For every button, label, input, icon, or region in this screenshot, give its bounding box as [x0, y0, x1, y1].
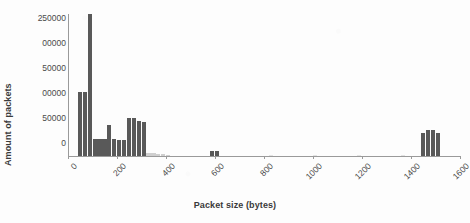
bar: [107, 125, 111, 156]
bar: [83, 92, 87, 156]
x-tick-mark: [264, 156, 265, 159]
x-tick-200: 200: [90, 161, 128, 199]
x-tick-800: 800: [237, 161, 275, 199]
x-tick-mark: [313, 156, 314, 159]
bar: [357, 155, 361, 156]
bar: [431, 130, 435, 156]
x-tick-400: 400: [139, 161, 177, 199]
chart-root: 250000 00000 50000 00000 50000 0 Amount …: [0, 0, 470, 223]
bar: [151, 153, 155, 156]
bar: [102, 139, 106, 156]
x-tick-mark: [215, 156, 216, 159]
bar: [122, 140, 126, 156]
bar: [127, 118, 131, 156]
bar: [401, 155, 405, 156]
x-tick-mark: [117, 156, 118, 159]
bar: [269, 155, 273, 156]
bar: [137, 121, 141, 156]
x-tick-mark: [362, 156, 363, 159]
x-tick-1200: 1200: [335, 161, 373, 199]
x-tick-mark: [166, 156, 167, 159]
bar: [161, 154, 165, 156]
x-tick-mark: [68, 156, 69, 159]
bar: [436, 133, 440, 156]
bar: [78, 92, 82, 156]
x-tick-mark: [460, 156, 461, 159]
bar: [146, 153, 150, 156]
bar: [156, 154, 160, 156]
bar: [88, 14, 92, 156]
bar: [426, 130, 430, 156]
y-axis-line: [68, 14, 69, 157]
x-axis-title: Packet size (bytes): [0, 200, 470, 210]
bar: [117, 140, 121, 156]
x-tick-1400: 1400: [384, 161, 422, 199]
x-tick-1000: 1000: [286, 161, 324, 199]
x-tick-1600: 1600: [433, 161, 470, 199]
bar: [421, 133, 425, 156]
bar: [210, 151, 214, 156]
bar: [142, 122, 146, 156]
bar: [112, 139, 116, 156]
x-tick-mark: [411, 156, 412, 159]
x-tick-600: 600: [188, 161, 226, 199]
y-axis-title: Amount of packets: [0, 0, 16, 166]
bar: [97, 139, 101, 156]
bar: [132, 118, 136, 156]
bar: [93, 139, 97, 156]
plot-area: [68, 14, 460, 157]
